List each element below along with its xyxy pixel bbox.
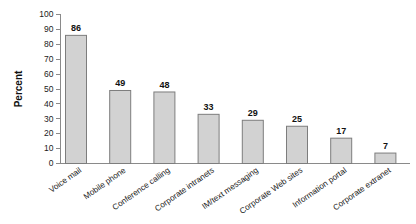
bar-value-label: 7 [383, 141, 388, 151]
bar-value-label: 29 [248, 108, 258, 118]
bar-chart: 0102030405060708090100 864948332925177 V… [0, 0, 416, 224]
y-tick-label: 60 [44, 69, 54, 79]
bar-value-label: 49 [115, 78, 125, 88]
bar [242, 120, 263, 163]
y-tick-label: 10 [44, 143, 54, 153]
bar [198, 114, 219, 163]
y-tick-label: 80 [44, 39, 54, 49]
chart-canvas: 0102030405060708090100 864948332925177 V… [0, 0, 416, 224]
bar-value-label: 86 [71, 23, 81, 33]
y-tick-label: 20 [44, 128, 54, 138]
y-tick-label: 40 [44, 99, 54, 109]
bar-value-label: 25 [292, 114, 302, 124]
bar-value-label: 17 [336, 126, 346, 136]
y-tick-label: 70 [44, 54, 54, 64]
bar [287, 126, 308, 163]
y-tick-label: 0 [49, 158, 54, 168]
bar [154, 92, 175, 164]
y-tick-label: 90 [44, 24, 54, 34]
bar [110, 90, 131, 163]
y-tick-label: 100 [39, 9, 53, 19]
bar-value-label: 48 [159, 80, 169, 90]
bar-value-label: 33 [204, 102, 214, 112]
bar [375, 153, 396, 163]
bar [66, 35, 87, 163]
y-tick-label: 30 [44, 114, 54, 124]
y-tick-label: 50 [44, 84, 54, 94]
y-axis-title: Percent [13, 70, 24, 107]
bar [331, 138, 352, 163]
